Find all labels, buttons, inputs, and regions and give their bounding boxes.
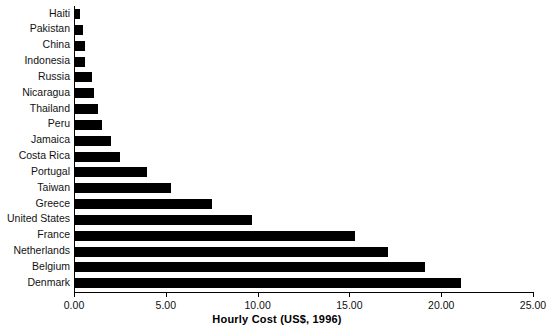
category-label: Netherlands [0,245,70,256]
bar [74,247,388,257]
bar [74,136,111,146]
category-label: Haiti [0,8,70,19]
bar [74,25,83,35]
x-tick-mark [441,292,442,297]
x-tick-mark [166,292,167,297]
bar-row [74,164,533,181]
category-label: United States [0,213,70,224]
x-tick-label: 25.00 [520,299,546,311]
category-label: Costa Rica [0,150,70,161]
bar-row [74,69,533,86]
bar-chart: HaitiPakistanChinaIndonesiaRussiaNicarag… [0,0,554,331]
category-label: Greece [0,198,70,209]
x-tick-label: 10.00 [244,299,270,311]
category-label: Jamaica [0,134,70,145]
bar-row [74,101,533,118]
x-tick-label: 20.00 [428,299,454,311]
x-tick-label: 5.00 [156,299,176,311]
category-label: Portugal [0,166,70,177]
bar [74,152,120,162]
bar [74,183,171,193]
x-tick-mark [533,292,534,297]
bar-row [74,117,533,134]
x-tick-label: 15.00 [336,299,362,311]
bar [74,120,102,130]
x-axis-line [74,292,534,293]
bar [74,278,461,288]
bar-rows [74,6,533,291]
x-tick-mark [258,292,259,297]
x-tick-label: 0.00 [64,299,84,311]
bar-row [74,275,533,292]
bar [74,72,92,82]
bar-row [74,85,533,102]
plot-area [74,6,533,291]
bar-row [74,196,533,213]
category-label: Indonesia [0,55,70,66]
bar-row [74,244,533,261]
category-label: China [0,39,70,50]
bar [74,88,94,98]
bar [74,57,85,67]
bar-row [74,228,533,245]
bar-row [74,133,533,150]
bar-row [74,180,533,197]
category-label: Pakistan [0,23,70,34]
bar-row [74,259,533,276]
bar [74,104,98,114]
bar-row [74,212,533,229]
bar [74,167,147,177]
category-label: Taiwan [0,182,70,193]
bar-row [74,22,533,39]
category-label: Nicaragua [0,87,70,98]
category-label: Thailand [0,103,70,114]
category-label: Denmark [0,277,70,288]
bar [74,215,252,225]
bar-row [74,149,533,166]
category-label: Peru [0,118,70,129]
category-label: Russia [0,71,70,82]
bar [74,199,212,209]
bar [74,41,85,51]
bar [74,9,80,19]
bar-row [74,38,533,55]
x-axis-title: Hourly Cost (US$, 1996) [0,313,554,325]
bar [74,262,425,272]
x-tick-mark [74,292,75,297]
x-tick-mark [349,292,350,297]
category-label: Belgium [0,261,70,272]
bar-row [74,54,533,71]
category-label: France [0,229,70,240]
bar [74,231,355,241]
category-axis-labels: HaitiPakistanChinaIndonesiaRussiaNicarag… [0,6,70,291]
bar-row [74,6,533,23]
